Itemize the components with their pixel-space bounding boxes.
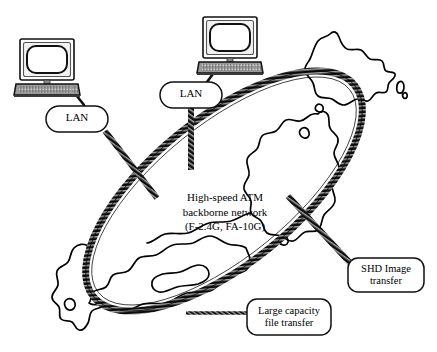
large-capacity-line2: file transfer — [247, 317, 331, 329]
computer-top-keyboard-numpad — [255, 64, 261, 71]
backbone-label-line1: High-speed ATM — [145, 190, 305, 205]
shd-image-transfer-label: SHD Image transfer — [348, 263, 424, 287]
computer-left-keyboard-base-shadow — [14, 95, 80, 97]
computer-left-screen — [27, 46, 67, 73]
network-diagram-svg — [0, 0, 437, 352]
computer-left-keyboard-keys — [19, 86, 71, 93]
shd-image-transfer-line2: transfer — [348, 275, 424, 287]
lan-top-label-text: LAN — [160, 87, 222, 99]
computer-top-keyboard-base-shadow — [197, 73, 263, 75]
computer-top-screen — [210, 24, 250, 51]
diagram-canvas: LAN LAN SHD Image transfer Large capacit… — [0, 0, 437, 352]
backbone-label-line3: (F-2.4G, FA-10G) — [145, 219, 305, 234]
lan-left-label-text: LAN — [46, 111, 108, 123]
backbone-label-line2: backborne network — [145, 205, 305, 220]
lan-left-label: LAN — [46, 111, 108, 123]
computer-left[interactable] — [14, 39, 80, 97]
computer-top-keyboard-keys — [202, 64, 254, 71]
computer-top[interactable] — [197, 17, 263, 75]
shd-image-transfer-line1: SHD Image — [348, 263, 424, 275]
lan-top-label: LAN — [160, 87, 222, 99]
large-capacity-file-transfer-label: Large capacity file transfer — [247, 305, 331, 329]
backbone-center-label: High-speed ATM backborne network (F-2.4G… — [145, 190, 305, 234]
computer-left-keyboard-numpad — [72, 86, 78, 93]
large-capacity-line1: Large capacity — [247, 305, 331, 317]
